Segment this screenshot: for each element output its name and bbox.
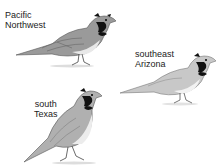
horned-lark-south-texas-icon [22, 86, 112, 166]
horned-lark-pacific-northwest-icon [12, 8, 122, 68]
horned-lark-southeast-arizona-icon [118, 48, 218, 106]
figure: Pacific Northwest southeast Arizona sout… [0, 0, 218, 168]
